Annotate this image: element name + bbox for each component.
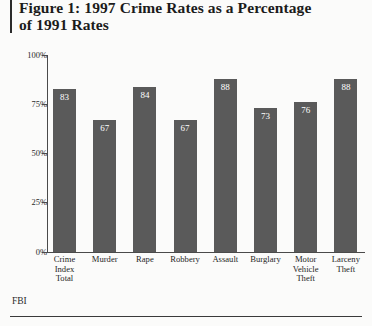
footer-divider <box>10 316 362 317</box>
bar-value-label: 76 <box>294 105 317 115</box>
bar-value-label: 83 <box>53 92 76 102</box>
y-axis-line <box>47 55 48 253</box>
y-axis-tick-mark <box>42 252 47 253</box>
bar: 88 <box>334 79 357 252</box>
bar: 83 <box>53 89 76 253</box>
bar: 73 <box>254 108 277 252</box>
bar-value-label: 88 <box>334 82 357 92</box>
x-axis-line <box>47 252 365 253</box>
x-axis-tick-label: LarcenyTheft <box>324 255 368 274</box>
y-axis-tick: 0% <box>0 248 47 257</box>
bar: 76 <box>294 102 317 252</box>
bar: 67 <box>93 120 116 252</box>
bar: 84 <box>133 87 156 252</box>
x-axis-tick-label: CrimeIndexTotal <box>43 255 87 284</box>
y-axis-tick-mark <box>42 104 47 105</box>
bar-value-label: 67 <box>93 123 116 133</box>
y-axis-tick: 25% <box>0 198 47 207</box>
x-axis-tick-label: Robbery <box>163 255 207 265</box>
x-axis-tick-label: Assault <box>203 255 247 265</box>
bar-value-label: 73 <box>254 111 277 121</box>
x-axis-tick-label: MotorVehicleTheft <box>284 255 328 284</box>
bar: 88 <box>214 79 237 252</box>
y-axis-tick: 75% <box>0 100 47 109</box>
x-axis-tick-label: Murder <box>83 255 127 265</box>
y-axis-tick-mark <box>42 202 47 203</box>
bar-value-label: 84 <box>133 90 156 100</box>
bar-value-label: 67 <box>174 123 197 133</box>
y-axis-tick: 50% <box>0 149 47 158</box>
bar: 67 <box>174 120 197 252</box>
x-axis-tick-label: Rape <box>123 255 167 265</box>
y-axis-tick-mark <box>42 55 47 56</box>
bar-value-label: 88 <box>214 82 237 92</box>
bar-chart-plot: 100%75%50%25%0% 8367846788737688 CrimeIn… <box>0 0 372 326</box>
figure-container: Figure 1: 1997 Crime Rates as a Percenta… <box>0 0 372 326</box>
y-axis-tick-mark <box>42 153 47 154</box>
source-note: FBI <box>12 296 27 307</box>
x-axis-tick-label: Burglary <box>244 255 288 265</box>
y-axis-tick: 100% <box>0 51 47 60</box>
